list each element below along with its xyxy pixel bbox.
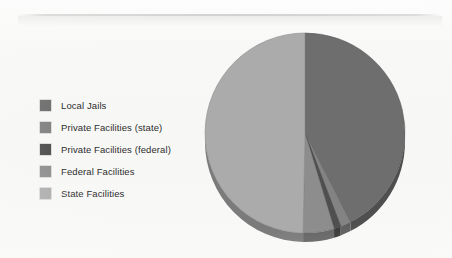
pie-chart	[198, 22, 420, 244]
legend-item-private-facilities-federal[interactable]: Private Facilities (federal)	[40, 138, 210, 160]
legend-swatch-icon	[40, 188, 51, 199]
pie-chart-svg	[198, 22, 420, 244]
legend-item-federal-facilities[interactable]: Federal Facilities	[40, 160, 210, 182]
pie-slices	[205, 33, 405, 233]
chart-legend: Local Jails Private Facilities (state) P…	[40, 94, 210, 204]
legend-item-label: Local Jails	[61, 100, 106, 111]
legend-swatch-icon	[40, 122, 51, 133]
legend-item-local-jails[interactable]: Local Jails	[40, 94, 210, 116]
legend-item-state-facilities[interactable]: State Facilities	[40, 182, 210, 204]
legend-swatch-icon	[40, 166, 51, 177]
legend-swatch-icon	[40, 144, 51, 155]
chart-page: Local Jails Private Facilities (state) P…	[0, 0, 452, 258]
pie-slice-state-facilities[interactable]	[205, 33, 305, 233]
scan-artifact-line	[18, 14, 442, 16]
legend-swatch-icon	[40, 100, 51, 111]
legend-item-label: State Facilities	[61, 188, 124, 199]
legend-item-label: Private Facilities (state)	[61, 122, 162, 133]
legend-item-label: Federal Facilities	[61, 166, 135, 177]
legend-item-label: Private Facilities (federal)	[61, 144, 171, 155]
legend-item-private-facilities-state[interactable]: Private Facilities (state)	[40, 116, 210, 138]
